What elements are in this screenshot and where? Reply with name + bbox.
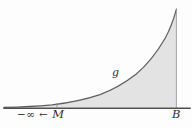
- minus-infinity-symbol: −∞: [17, 108, 35, 120]
- curve-label-g: g: [112, 67, 119, 78]
- shaded-area-under-curve: [4, 9, 176, 107]
- right-endpoint-label-B: B: [172, 109, 180, 121]
- left-arrow-icon: ←: [39, 109, 48, 120]
- figure-container: g −∞←M B: [0, 0, 192, 128]
- variable-M-label: M: [52, 107, 64, 121]
- left-endpoint-label: −∞←M: [17, 109, 64, 121]
